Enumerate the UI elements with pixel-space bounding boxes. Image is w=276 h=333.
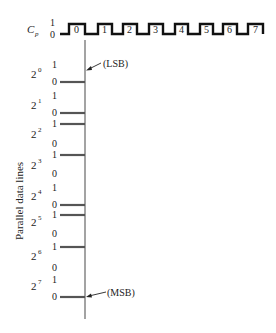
bit-weight-exp: 3 [38, 157, 42, 165]
pulse-label-1: 1 [102, 24, 107, 35]
bit-level-high: 1 [52, 241, 57, 252]
bit-line-2: 2 2 1 0 [31, 118, 85, 149]
bit-line-3: 2 3 1 0 [31, 149, 85, 179]
lsb-arrow-head-icon [86, 66, 92, 71]
bit-line-6: 2 6 1 0 [31, 241, 85, 273]
clock-level-low: 0 [50, 29, 55, 40]
pulse-label-0: 0 [74, 24, 79, 35]
bit-weight-exp: 4 [38, 188, 42, 196]
bit-level-high: 1 [52, 59, 57, 70]
clock-label-main: C [27, 23, 35, 35]
bit-weight-base: 2 [31, 216, 37, 228]
bit-line-4: 2 4 1 0 [31, 182, 85, 210]
clock-waveform [60, 24, 263, 34]
bit-line-0: 2 0 1 0 [31, 59, 85, 87]
bit-weight-exp: 2 [38, 126, 42, 134]
parallel-data-lines-label: Parallel data lines [13, 162, 25, 240]
pulse-label-3: 3 [153, 24, 158, 35]
pulse-label-2: 2 [127, 24, 132, 35]
bit-weight-exp: 0 [38, 66, 42, 74]
bit-level-low: 0 [52, 138, 57, 149]
bit-weight-base: 2 [31, 159, 37, 171]
bit-level-low: 0 [52, 262, 57, 273]
bit-level-low: 0 [52, 76, 57, 87]
bit-level-low: 0 [52, 107, 57, 118]
lsb-label: (LSB) [103, 58, 128, 70]
bit-weight-exp: 5 [38, 214, 42, 222]
timing-diagram-svg: C p 1 0 0 1 2 3 4 5 6 7 (LSB) [0, 0, 276, 333]
bit-line-5: 2 5 1 0 [31, 209, 85, 239]
lsb-annotation: (LSB) [86, 58, 128, 71]
bit-weight-base: 2 [31, 280, 37, 292]
pulse-label-4: 4 [179, 24, 184, 35]
bit-weight-exp: 7 [38, 278, 42, 286]
bit-weight-base: 2 [31, 68, 37, 80]
msb-arrow-head-icon [86, 294, 92, 298]
clock-level-high: 1 [50, 17, 55, 28]
timing-diagram: C p 1 0 0 1 2 3 4 5 6 7 (LSB) [0, 0, 276, 333]
bit-level-high: 1 [52, 90, 57, 101]
bit-weight-exp: 6 [38, 248, 42, 256]
bit-level-low: 0 [52, 168, 57, 179]
bit-weight-exp: 1 [38, 97, 42, 105]
bit-level-high: 1 [52, 274, 57, 285]
clock-label: C p [27, 23, 39, 38]
pulse-label-5: 5 [204, 24, 209, 35]
msb-arrow-line [89, 292, 106, 296]
bit-line-7: 2 7 1 0 [31, 274, 85, 302]
bit-weight-base: 2 [31, 128, 37, 140]
bit-level-low: 0 [52, 228, 57, 239]
bit-level-high: 1 [52, 182, 57, 193]
clock-label-subscript: p [34, 30, 39, 38]
msb-label: (MSB) [107, 287, 135, 299]
bit-weight-base: 2 [31, 250, 37, 262]
bit-weight-base: 2 [31, 99, 37, 111]
msb-annotation: (MSB) [86, 287, 135, 299]
bit-level-low: 0 [52, 291, 57, 302]
bit-level-high: 1 [52, 209, 57, 220]
pulse-label-7: 7 [253, 24, 258, 35]
bit-line-1: 2 1 1 0 [31, 90, 85, 118]
pulse-label-6: 6 [227, 24, 232, 35]
bit-weight-base: 2 [31, 190, 37, 202]
bit-level-high: 1 [52, 118, 57, 129]
bit-level-high: 1 [52, 149, 57, 160]
